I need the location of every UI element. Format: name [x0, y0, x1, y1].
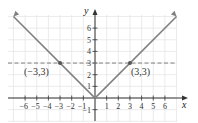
svg-text:5: 5: [151, 102, 155, 111]
svg-text:6: 6: [163, 102, 167, 111]
svg-text:−2: −2: [66, 102, 75, 111]
svg-text:3: 3: [128, 102, 132, 111]
svg-text:3: 3: [87, 59, 91, 68]
svg-text:−5: −5: [31, 102, 40, 111]
svg-text:−6: −6: [20, 102, 29, 111]
y-axis-label: y: [83, 5, 89, 16]
svg-text:−4: −4: [43, 102, 52, 111]
svg-text:6: 6: [87, 24, 91, 33]
x-axis-label: x: [181, 99, 187, 110]
svg-text:5: 5: [87, 36, 91, 45]
svg-text:2: 2: [116, 102, 120, 111]
svg-text:1: 1: [105, 102, 109, 111]
graph: −6−5−4−3−2−1123456−1123456 y x (−3,3) (3…: [0, 0, 198, 123]
svg-text:−3: −3: [55, 102, 64, 111]
svg-text:2: 2: [87, 71, 91, 80]
svg-text:−1: −1: [82, 106, 91, 115]
svg-text:4: 4: [140, 102, 144, 111]
plot-series: [8, 11, 177, 98]
point-label-left: (−3,3): [24, 66, 49, 78]
point-label-right: (3,3): [131, 66, 150, 78]
svg-text:4: 4: [87, 47, 91, 56]
